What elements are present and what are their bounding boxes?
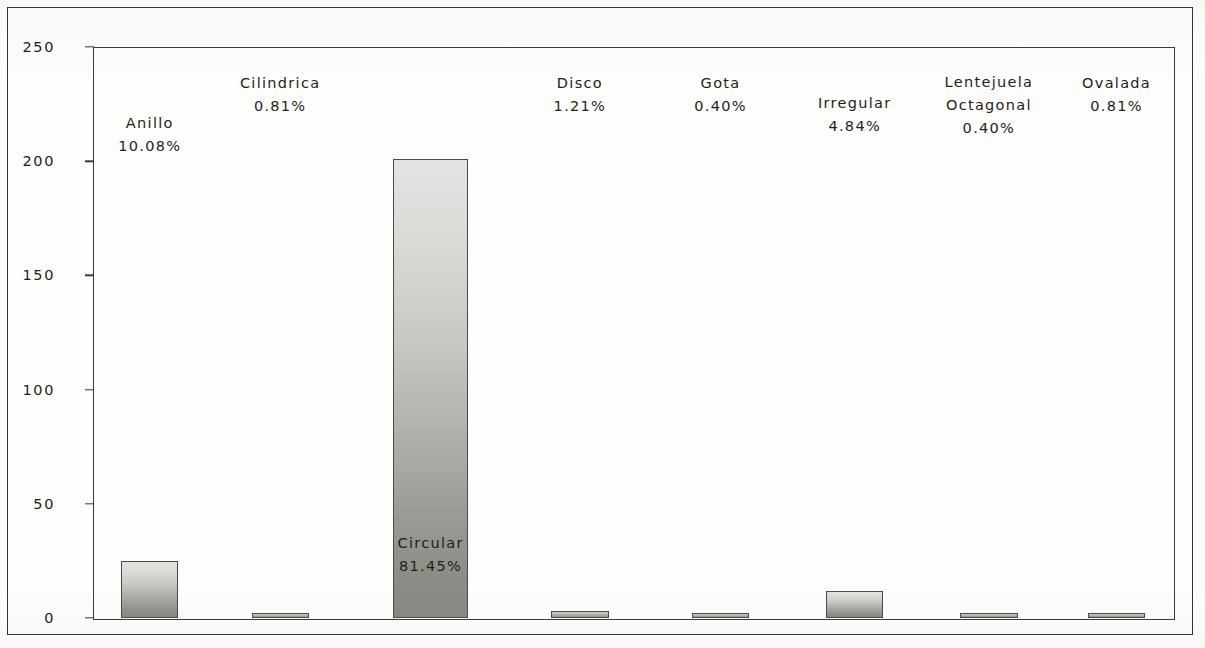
bar-value-label: 81.45% bbox=[397, 555, 463, 578]
bar-value-label: 0.81% bbox=[1082, 95, 1151, 118]
bar-category-label: Cilindrica bbox=[240, 72, 320, 95]
bar bbox=[252, 613, 309, 618]
y-axis-tick-label: 0 bbox=[44, 610, 55, 626]
y-axis-tick-label: 150 bbox=[23, 267, 55, 283]
bar-value-label: 10.08% bbox=[118, 135, 181, 158]
bar-annotation: Cilindrica0.81% bbox=[240, 72, 320, 118]
bar-value-label: 4.84% bbox=[818, 115, 892, 138]
bar-category-label: Anillo bbox=[118, 112, 181, 135]
y-axis-tick-label: 200 bbox=[23, 153, 55, 169]
bar-chart-figure: 050100150200250 Anillo10.08%Cilindrica0.… bbox=[0, 0, 1205, 648]
bar-category-label: Gota bbox=[694, 72, 747, 95]
bar-value-label: 1.21% bbox=[554, 95, 607, 118]
bar-annotation: Ovalada0.81% bbox=[1082, 72, 1151, 118]
bar-value-label: 0.81% bbox=[240, 95, 320, 118]
bar bbox=[121, 561, 178, 618]
plot-area: Anillo10.08%Cilindrica0.81%Circular81.45… bbox=[93, 47, 1175, 618]
y-axis-tick-label: 250 bbox=[23, 39, 55, 55]
bar bbox=[1088, 613, 1145, 618]
bar-annotation: Anillo10.08% bbox=[118, 112, 181, 158]
bar-annotation: Irregular4.84% bbox=[818, 92, 892, 138]
bar-category-label: Lentejuela bbox=[945, 71, 1034, 94]
y-axis-tick-label: 100 bbox=[23, 382, 55, 398]
bar bbox=[692, 613, 749, 618]
bar-category-label: Ovalada bbox=[1082, 72, 1151, 95]
bar bbox=[551, 611, 608, 618]
bar-value-label: 0.40% bbox=[945, 117, 1034, 140]
bar-category-label: Disco bbox=[554, 72, 607, 95]
bar bbox=[826, 591, 883, 618]
bar bbox=[960, 613, 1017, 618]
bar-value-label: 0.40% bbox=[694, 95, 747, 118]
bar-category-label: Circular bbox=[397, 532, 463, 555]
bar-annotation: LentejuelaOctagonal0.40% bbox=[945, 71, 1034, 140]
bar-annotation: Disco1.21% bbox=[554, 72, 607, 118]
bar-annotation: Gota0.40% bbox=[694, 72, 747, 118]
bar-category-label: Octagonal bbox=[945, 94, 1034, 117]
bar-annotation: Circular81.45% bbox=[397, 532, 463, 578]
bar-category-label: Irregular bbox=[818, 92, 892, 115]
y-axis-tick-label: 50 bbox=[33, 496, 55, 512]
y-axis: 050100150200250 bbox=[0, 0, 93, 648]
